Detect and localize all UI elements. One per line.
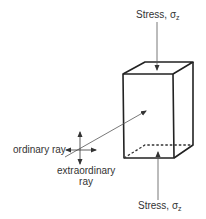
bottom-stress-text: Stress, bbox=[138, 200, 172, 211]
crystal-block bbox=[123, 62, 193, 158]
top-stress-label: Stress, σz bbox=[136, 9, 180, 23]
extraordinary-ray-line1: extraordinary bbox=[57, 165, 115, 176]
top-stress-text: Stress, bbox=[136, 9, 170, 20]
bottom-stress-label: Stress, σz bbox=[138, 200, 182, 214]
sigma-subscript: z bbox=[176, 14, 180, 21]
sigma-subscript: z bbox=[178, 205, 182, 212]
extraordinary-ray-line2: ray bbox=[57, 176, 115, 187]
ordinary-ray-label: ordinary ray bbox=[13, 144, 66, 155]
extraordinary-ray-label: extraordinary ray bbox=[57, 165, 115, 187]
